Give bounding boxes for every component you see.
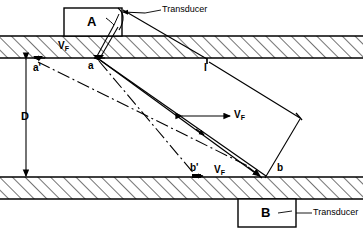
vf-middle-label: VF (234, 110, 245, 120)
point-I-label: I (204, 63, 207, 73)
transducer-a-label: A (87, 15, 96, 28)
vf-bottom-subscript: F (221, 169, 225, 176)
dimension-D-label: D (21, 111, 29, 122)
vf-bottom-symbol: V (214, 164, 221, 175)
point-a-prime-label: a' (33, 63, 41, 73)
vf-bottom-label: VF (214, 165, 225, 175)
transducer-bottom-annotation: Transducer (313, 208, 358, 217)
point-b-prime-label: b' (190, 163, 199, 173)
pipe-wall-top (0, 36, 363, 58)
vf-top-symbol: V (58, 40, 65, 51)
ray-a-to-I-to-b (123, 10, 302, 178)
dashdot-a-to-bprime (99, 61, 196, 176)
transducer-top-annotation: Transducer (162, 5, 207, 14)
transducer-b-label: B (261, 206, 270, 219)
vf-top-label: VF (58, 41, 69, 51)
diagram-canvas (0, 0, 363, 232)
pipe-wall-bottom (0, 177, 363, 199)
vf-middle-symbol: V (234, 109, 241, 120)
vf-top-subscript: F (65, 45, 69, 52)
point-a-label: a (88, 61, 94, 71)
point-b-label: b (277, 163, 283, 173)
vf-middle-subscript: F (241, 114, 245, 121)
figure-root: A B Transducer Transducer a' a I b' b D … (0, 0, 363, 232)
